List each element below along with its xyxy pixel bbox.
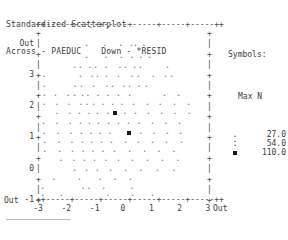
data-point-dot: . xyxy=(159,108,164,116)
legend: Symbols: Max N .27.0:54.0110.0 xyxy=(228,30,267,177)
bottom-rule-divider xyxy=(6,219,70,220)
data-point-dot: . xyxy=(96,90,101,98)
data-point-dot: . xyxy=(137,118,142,126)
data-point-dot: . xyxy=(177,118,182,126)
data-point-dot: . xyxy=(118,62,123,70)
data-point-dot: . xyxy=(175,155,180,163)
legend-row: 110.0 xyxy=(228,148,267,157)
data-point-dot: . xyxy=(178,128,183,136)
data-point-dot: . xyxy=(71,155,76,163)
data-point-dot: . xyxy=(80,137,85,145)
right-axis-rail: + | + | + | + | + | + | + | + | + xyxy=(207,29,212,206)
x-tick-3: 3 xyxy=(201,204,215,213)
data-point-dot: . xyxy=(91,81,96,89)
data-point-dot: . xyxy=(110,99,115,107)
data-point-dot: . xyxy=(106,118,111,126)
x-tick-2: 2 xyxy=(173,204,187,213)
data-point-dot: . xyxy=(68,118,73,126)
data-point-dot: . xyxy=(86,108,91,116)
data-point-dot: . xyxy=(172,99,177,107)
data-point-dot: . xyxy=(84,165,89,173)
data-point-dot: . xyxy=(101,183,106,191)
data-point-dot: . xyxy=(120,99,125,107)
data-point-dot: . xyxy=(112,146,117,154)
data-point-dot: . xyxy=(123,62,128,70)
data-point-dot: . xyxy=(72,62,77,70)
data-point-dot: . xyxy=(144,81,149,89)
data-point-dot: . xyxy=(133,108,138,116)
data-point-dot: . xyxy=(116,90,121,98)
block-symbol xyxy=(228,148,242,158)
data-point-dot: . xyxy=(96,118,101,126)
data-point-dot: . xyxy=(59,155,64,163)
data-point-dot: . xyxy=(173,108,178,116)
data-point-dot: . xyxy=(99,137,104,145)
data-point-dot: . xyxy=(116,118,121,126)
block-glyph xyxy=(233,151,237,155)
legend-max-n-label: Max N xyxy=(238,92,267,102)
data-point-dot: . xyxy=(155,165,160,173)
data-point-dot: . xyxy=(136,71,141,79)
data-point-dot: . xyxy=(42,99,47,107)
data-point-dot: . xyxy=(81,146,86,154)
data-point-dot: . xyxy=(150,137,155,145)
data-point-dot: . xyxy=(141,40,146,48)
data-point-dot: . xyxy=(109,137,114,145)
data-point-dot: . xyxy=(164,137,169,145)
data-point-dot: . xyxy=(53,90,58,98)
data-point-dot: . xyxy=(56,128,61,136)
data-point-dot: . xyxy=(139,165,144,173)
data-point-dot: . xyxy=(132,62,137,70)
data-point-dot: . xyxy=(105,81,110,89)
data-point-dot: . xyxy=(86,183,91,191)
y-tick-0: 0 xyxy=(2,164,34,174)
legend-title: Symbols: xyxy=(228,50,267,60)
data-point-dot: . xyxy=(105,90,110,98)
data-point-dot: . xyxy=(52,174,57,182)
data-point-dot: . xyxy=(79,99,84,107)
data-point-dot: . xyxy=(77,174,82,182)
data-point-dot: . xyxy=(42,71,47,79)
data-point-dot: . xyxy=(56,137,61,145)
data-point-dot: . xyxy=(103,155,108,163)
bottom-axis-rail: ++-----+-----+-----+-----+-----+-----++ xyxy=(36,196,224,204)
data-point-dot: . xyxy=(110,81,115,89)
data-point-dot: . xyxy=(93,62,98,70)
data-point-dot: . xyxy=(79,128,84,136)
data-point-dot: . xyxy=(139,52,144,60)
data-point-dot: . xyxy=(54,99,59,107)
data-point-dot: . xyxy=(131,99,136,107)
data-point-dot: . xyxy=(77,108,82,116)
data-point-dot: . xyxy=(187,108,192,116)
data-point-dot: . xyxy=(105,108,110,116)
data-point-dot: . xyxy=(103,40,108,48)
data-point-block xyxy=(113,111,117,115)
left-axis-rail: + | + | + | + | + | + | + | + | + xyxy=(36,29,41,206)
y-tick-2: 2 xyxy=(2,101,34,111)
data-point-dot: . xyxy=(136,137,141,145)
data-point-dot: . xyxy=(130,52,135,60)
data-point-dot: . xyxy=(54,108,59,116)
data-point-dot: . xyxy=(171,146,176,154)
data-point-dot: . xyxy=(70,146,75,154)
data-point-dot: . xyxy=(79,81,84,89)
data-point-dot: . xyxy=(86,90,91,98)
data-point-dot: . xyxy=(151,71,156,79)
data-point-dot: . xyxy=(130,71,135,79)
data-point-dot: . xyxy=(127,146,132,154)
data-point-dot: . xyxy=(57,146,62,154)
data-point-dot: . xyxy=(150,118,155,126)
data-point-dot: . xyxy=(69,137,74,145)
data-point-dot: . xyxy=(82,155,87,163)
data-point-dot: . xyxy=(67,99,72,107)
data-point-dot: . xyxy=(40,183,45,191)
data-point-dot: . xyxy=(147,52,152,60)
x-tick-out-right: Out xyxy=(213,204,227,213)
data-point-dot: . xyxy=(163,71,168,79)
data-point-dot: . xyxy=(165,62,170,70)
data-point-dot: . xyxy=(91,99,96,107)
legend-row: .27.0 xyxy=(228,130,267,139)
data-point-dot: . xyxy=(95,165,100,173)
data-point-dot: . xyxy=(123,165,128,173)
data-point-dot: . xyxy=(103,52,108,60)
